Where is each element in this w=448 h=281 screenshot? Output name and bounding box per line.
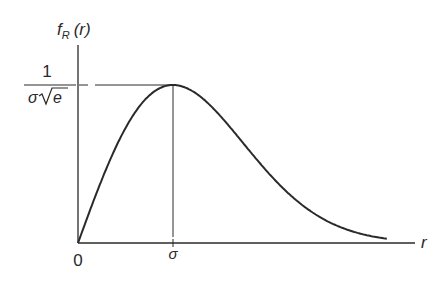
sigma-tick-label: σ — [168, 245, 178, 262]
origin-label: 0 — [73, 251, 82, 270]
rayleigh-pdf-diagram: fR(r) 1 σ e 0 σ r — [0, 0, 448, 281]
peak-label-numerator: 1 — [42, 62, 51, 81]
y-axis-label: fR(r) — [57, 20, 91, 41]
peak-label-denominator-e: e — [53, 89, 62, 106]
rayleigh-curve — [78, 85, 387, 243]
x-axis-label: r — [421, 233, 428, 252]
peak-label-denominator-sigma: σ — [28, 89, 39, 106]
